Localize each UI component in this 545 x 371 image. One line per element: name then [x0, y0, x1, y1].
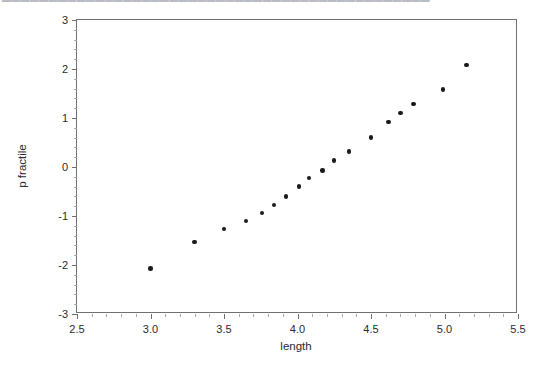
- data-point: [369, 135, 373, 139]
- x-tick-mark: [77, 314, 78, 319]
- x-minor-tick: [106, 314, 107, 317]
- x-minor-tick: [415, 314, 416, 317]
- scatter-plot-figure: p fractile length -3-2-10123 2.53.03.54.…: [0, 0, 545, 371]
- x-minor-tick: [136, 314, 137, 317]
- x-tick-label: 2.5: [69, 323, 84, 335]
- x-minor-tick: [400, 314, 401, 317]
- x-minor-tick: [386, 314, 387, 317]
- x-tick-label: 3.5: [216, 323, 231, 335]
- x-minor-tick: [327, 314, 328, 317]
- y-axis-title: p fractile: [16, 144, 28, 187]
- data-point: [320, 168, 324, 172]
- x-tick-mark: [518, 314, 519, 319]
- x-tick-label: 5.0: [437, 323, 452, 335]
- x-minor-tick: [503, 314, 504, 317]
- x-tick-mark: [224, 314, 225, 319]
- x-minor-tick: [430, 314, 431, 317]
- y-tick-label: -2: [58, 259, 68, 271]
- x-minor-tick: [283, 314, 284, 317]
- data-point: [297, 184, 301, 188]
- x-minor-tick: [209, 314, 210, 317]
- data-point: [284, 194, 288, 198]
- x-tick-label: 4.0: [290, 323, 305, 335]
- data-point: [332, 158, 336, 162]
- data-point: [386, 120, 390, 124]
- y-tick-label: 1: [62, 112, 68, 124]
- y-tick-label: -3: [58, 308, 68, 320]
- x-minor-tick: [459, 314, 460, 317]
- data-point: [398, 111, 402, 115]
- data-point: [148, 266, 152, 270]
- y-tick-label: 0: [62, 161, 68, 173]
- data-point: [347, 149, 351, 153]
- x-minor-tick: [92, 314, 93, 317]
- x-minor-tick: [474, 314, 475, 317]
- data-point: [192, 240, 196, 244]
- data-points-layer: [77, 20, 518, 314]
- data-point: [260, 211, 264, 215]
- x-minor-tick: [165, 314, 166, 317]
- data-point: [411, 102, 415, 106]
- data-point: [244, 219, 248, 223]
- x-tick-mark: [371, 314, 372, 319]
- x-minor-tick: [489, 314, 490, 317]
- x-minor-tick: [356, 314, 357, 317]
- x-minor-tick: [342, 314, 343, 317]
- y-tick-label: 2: [62, 63, 68, 75]
- data-point: [222, 227, 226, 231]
- data-point: [307, 176, 311, 180]
- x-minor-tick: [239, 314, 240, 317]
- x-tick-label: 5.5: [510, 323, 525, 335]
- y-tick-label: 3: [62, 14, 68, 26]
- x-minor-tick: [121, 314, 122, 317]
- x-minor-tick: [195, 314, 196, 317]
- x-tick-mark: [298, 314, 299, 319]
- x-minor-tick: [253, 314, 254, 317]
- x-tick-label: 3.0: [143, 323, 158, 335]
- data-point: [464, 63, 468, 67]
- x-axis-title: length: [280, 340, 311, 352]
- data-point: [272, 203, 276, 207]
- y-tick-label: -1: [58, 210, 68, 222]
- x-tick-mark: [445, 314, 446, 319]
- x-tick-label: 4.5: [363, 323, 378, 335]
- x-minor-tick: [312, 314, 313, 317]
- data-point: [441, 87, 445, 91]
- x-tick-mark: [151, 314, 152, 319]
- x-minor-tick: [180, 314, 181, 317]
- x-minor-tick: [268, 314, 269, 317]
- plot-area: -3-2-10123 2.53.03.54.04.55.05.5: [76, 19, 517, 313]
